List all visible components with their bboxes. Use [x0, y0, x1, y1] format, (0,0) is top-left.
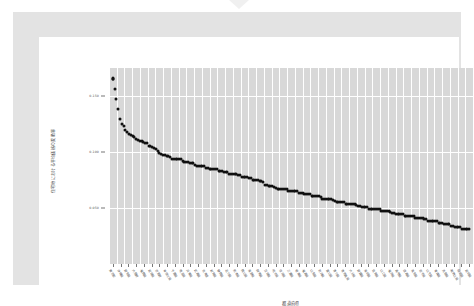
x-tick-mark — [237, 264, 238, 267]
x-tick-mark — [276, 264, 277, 267]
x-tick-mark — [221, 264, 222, 267]
data-point — [113, 87, 116, 90]
x-axis: 東京都沖縄県愛知県大阪府福岡県宮城県京都府神奈川県千葉県埼玉県兵庫県広島県北海道… — [109, 264, 473, 300]
data-point — [115, 97, 118, 100]
x-tick-mark — [260, 264, 261, 267]
x-tick-mark — [299, 264, 300, 267]
x-tick-mark — [392, 264, 393, 267]
x-tick-mark — [152, 264, 153, 267]
data-point — [119, 117, 122, 120]
y-tick-label: 0.150 — [89, 94, 99, 98]
x-tick-mark — [330, 264, 331, 267]
x-tick-mark — [252, 264, 253, 267]
x-tick-mark — [214, 264, 215, 267]
x-tick-mark — [159, 264, 160, 267]
x-axis-title: 都道府県 — [109, 300, 473, 306]
x-tick-mark — [167, 264, 168, 267]
x-tick-mark — [136, 264, 137, 267]
x-tick-mark — [198, 264, 199, 267]
x-tick-mark — [128, 264, 129, 267]
x-tick-mark — [430, 264, 431, 267]
x-tick-mark — [229, 264, 230, 267]
x-tick-mark — [306, 264, 307, 267]
y-tick-mark — [101, 208, 105, 209]
figure-frame: 0.1500.1000.050 住宅地における平均価格の変動率 東京都沖縄県愛知… — [13, 12, 461, 285]
x-tick-mark — [438, 264, 439, 267]
x-tick-mark — [461, 264, 462, 267]
x-tick-mark — [384, 264, 385, 267]
x-tick-mark — [322, 264, 323, 267]
y-tick-mark — [101, 96, 105, 97]
x-tick-mark — [361, 264, 362, 267]
data-point — [122, 124, 125, 127]
x-tick-mark — [291, 264, 292, 267]
x-tick-mark — [407, 264, 408, 267]
x-tick-mark — [190, 264, 191, 267]
y-axis-title: 住宅地における平均価格の変動率 — [50, 129, 56, 194]
x-tick-mark — [469, 264, 470, 267]
y-tick-label: 0.050 — [89, 206, 99, 210]
x-tick-mark — [454, 264, 455, 267]
x-tick-label: 宮崎県 — [465, 268, 474, 279]
x-tick-mark — [144, 264, 145, 267]
scatter-series — [109, 68, 473, 264]
x-tick-mark — [399, 264, 400, 267]
x-tick-mark — [121, 264, 122, 267]
chart-card: 0.1500.1000.050 住宅地における平均価格の変動率 東京都沖縄県愛知… — [39, 37, 459, 285]
x-tick-mark — [314, 264, 315, 267]
data-point — [468, 228, 471, 231]
y-tick-mark — [101, 152, 105, 153]
triangle-down-icon — [229, 0, 249, 9]
x-tick-mark — [283, 264, 284, 267]
x-tick-mark — [446, 264, 447, 267]
x-tick-mark — [245, 264, 246, 267]
y-tick-label: 0.100 — [89, 150, 99, 154]
x-tick-mark — [376, 264, 377, 267]
x-tick-mark — [423, 264, 424, 267]
x-tick-mark — [183, 264, 184, 267]
x-tick-mark — [353, 264, 354, 267]
top-strip — [0, 0, 474, 12]
x-tick-mark — [175, 264, 176, 267]
data-point — [117, 107, 120, 110]
x-tick-mark — [345, 264, 346, 267]
x-tick-mark — [206, 264, 207, 267]
x-tick-mark — [368, 264, 369, 267]
plot-area — [109, 68, 473, 264]
x-tick-mark — [113, 264, 114, 267]
x-tick-mark — [268, 264, 269, 267]
data-point-outlier — [111, 77, 115, 81]
x-tick-mark — [415, 264, 416, 267]
x-tick-mark — [337, 264, 338, 267]
